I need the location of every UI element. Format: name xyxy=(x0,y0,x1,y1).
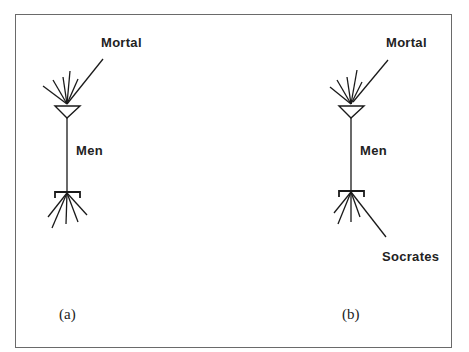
soma-triangle-a xyxy=(55,106,80,118)
soma-triangle-b xyxy=(339,106,364,118)
input-line-mortal-b xyxy=(353,60,388,102)
label-men-b: Men xyxy=(360,143,387,158)
dendrites-b xyxy=(330,70,362,104)
output-line-socrates-b xyxy=(351,192,386,237)
caption-a: (a) xyxy=(59,306,76,323)
diagram-canvas xyxy=(0,0,469,352)
input-line-mortal-a xyxy=(67,59,103,104)
dendrites-a xyxy=(43,71,78,104)
terminal-branches-b xyxy=(334,192,360,224)
terminal-branches-a xyxy=(48,193,87,228)
label-men-a: Men xyxy=(76,143,103,158)
label-mortal-a: Mortal xyxy=(101,35,142,50)
caption-b: (b) xyxy=(342,306,360,323)
label-socrates-b: Socrates xyxy=(382,249,439,264)
label-mortal-b: Mortal xyxy=(386,35,427,50)
